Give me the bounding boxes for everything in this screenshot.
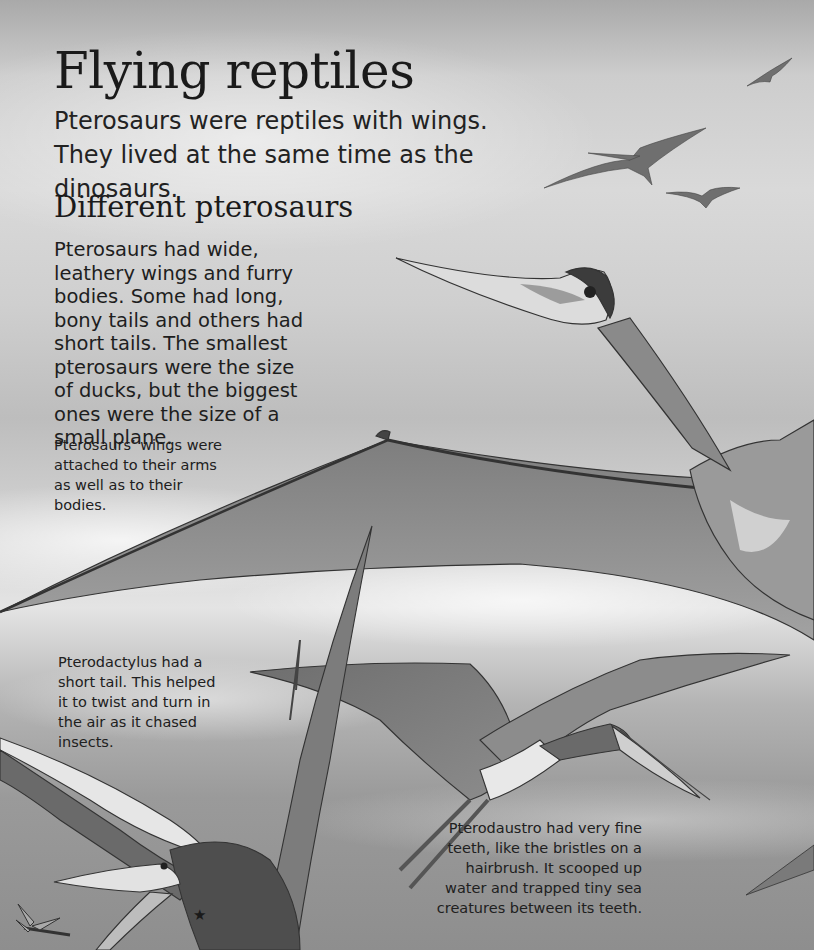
caption-wings: Pterosaurs’ wings were attached to their… — [54, 435, 224, 515]
caption-pterodaustro: Pterodaustro had very fine teeth, like t… — [420, 818, 642, 918]
dragonfly-icon — [16, 904, 70, 935]
page-title: Flying reptiles — [54, 42, 414, 100]
distant-pterosaur-flock — [544, 58, 792, 208]
section-heading: Different pterosaurs — [54, 190, 353, 224]
book-page: Flying reptiles Pterosaurs were reptiles… — [0, 0, 814, 950]
star-icon: ★ — [193, 906, 206, 924]
caption-pterodactylus: Pterodactylus had a short tail. This hel… — [58, 652, 228, 752]
section-body: Pterosaurs had wide, leathery wings and … — [54, 238, 304, 450]
pterosaur-wingtip — [746, 845, 814, 895]
